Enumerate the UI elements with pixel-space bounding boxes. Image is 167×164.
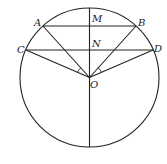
angle-mark-right	[98, 68, 101, 73]
label-b: B	[137, 17, 145, 28]
label-n: N	[91, 38, 102, 49]
segment-od	[90, 50, 154, 78]
label-m: M	[91, 13, 103, 24]
angle-mark-left	[78, 68, 81, 73]
segment-oa	[43, 26, 90, 78]
segment-ob	[90, 26, 137, 78]
label-o: O	[90, 79, 98, 90]
label-d: D	[153, 43, 162, 54]
label-a: A	[33, 17, 41, 28]
label-c: C	[17, 44, 25, 55]
circle-diagram: A M B C N D O	[0, 0, 167, 164]
segment-oc	[26, 50, 90, 78]
